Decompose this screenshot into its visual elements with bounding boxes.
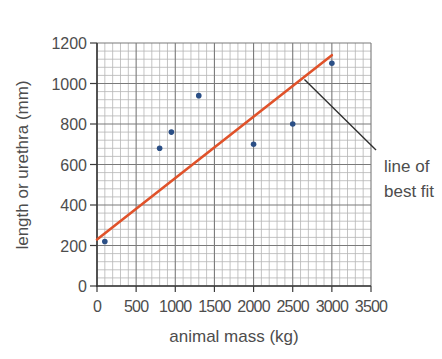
y-tick-label: 1200	[51, 35, 87, 52]
data-point	[157, 146, 163, 152]
y-tick-label: 800	[60, 116, 87, 133]
grid-major	[97, 43, 371, 286]
y-axis-title: length or urethra (mm)	[13, 80, 32, 249]
data-point	[196, 93, 202, 99]
annotation-pointer-line	[304, 79, 376, 150]
x-tick-label: 2000	[237, 298, 270, 315]
y-axis-ticks: 020040060080010001200	[51, 35, 97, 295]
data-point	[169, 129, 175, 135]
x-tick-label: 3000	[316, 298, 349, 315]
x-tick-label: 1000	[159, 298, 192, 315]
x-axis-ticks: 0500100015002000250030003500	[93, 286, 388, 315]
scatter-chart: 0500100015002000250030003500 02004006008…	[0, 0, 442, 359]
x-tick-label: 1500	[198, 298, 231, 315]
annotation-label-line1: line of	[384, 157, 430, 176]
x-tick-label: 2500	[277, 298, 310, 315]
data-point	[329, 60, 335, 66]
x-tick-label: 0	[93, 298, 102, 315]
y-tick-label: 600	[60, 157, 87, 174]
annotation-label-line2: best fit	[384, 182, 434, 201]
x-axis-title: animal mass (kg)	[169, 327, 298, 346]
data-point	[251, 141, 257, 147]
data-point	[102, 239, 108, 245]
data-points	[102, 60, 335, 244]
y-tick-label: 0	[78, 278, 87, 295]
y-tick-label: 400	[60, 197, 87, 214]
x-tick-label: 3500	[355, 298, 388, 315]
y-tick-label: 200	[60, 238, 87, 255]
x-tick-label: 500	[124, 298, 149, 315]
data-point	[290, 121, 296, 127]
y-tick-label: 1000	[51, 76, 87, 93]
